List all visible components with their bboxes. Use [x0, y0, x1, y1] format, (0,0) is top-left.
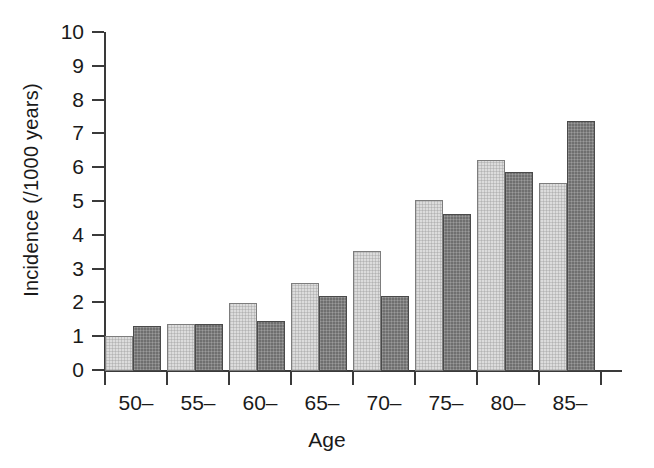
x-tick-label: 85–	[539, 392, 601, 414]
x-tick-mark	[352, 372, 354, 385]
x-axis-title: Age	[0, 428, 654, 452]
bar-55-light-series	[167, 324, 195, 371]
bar-60-dark-series	[257, 321, 285, 371]
x-tick-mark	[538, 372, 540, 385]
bar-55-dark-series	[195, 324, 223, 371]
incidence-by-age-bar-chart: Incidence (/1000 years) 012345678910 50–…	[0, 0, 654, 468]
x-tick-label: 75–	[415, 392, 477, 414]
x-tick-mark	[166, 372, 168, 385]
bars-layer	[0, 0, 654, 371]
x-tick-label: 60–	[229, 392, 291, 414]
x-tick-label: 80–	[477, 392, 539, 414]
bar-80-dark-series	[505, 172, 533, 371]
x-tick-mark	[104, 372, 106, 385]
bar-65-dark-series	[319, 296, 347, 371]
x-tick-mark	[228, 372, 230, 385]
bar-50-dark-series	[133, 326, 161, 371]
bar-70-light-series	[353, 251, 381, 371]
bar-60-light-series	[229, 303, 257, 371]
bar-70-dark-series	[381, 296, 409, 371]
x-tick-label: 50–	[105, 392, 167, 414]
bar-85-dark-series	[567, 121, 595, 371]
bar-80-light-series	[477, 160, 505, 371]
x-tick-label: 70–	[353, 392, 415, 414]
x-tick-mark	[414, 372, 416, 385]
x-tick-label: 55–	[167, 392, 229, 414]
x-tick-mark	[476, 372, 478, 385]
x-tick-mark	[290, 372, 292, 385]
bar-75-dark-series	[443, 214, 471, 371]
bar-50-light-series	[105, 336, 133, 371]
bar-65-light-series	[291, 283, 319, 371]
x-tick-mark	[600, 372, 602, 385]
x-tick-label: 65–	[291, 392, 353, 414]
bar-85-light-series	[539, 183, 567, 371]
bar-75-light-series	[415, 200, 443, 371]
